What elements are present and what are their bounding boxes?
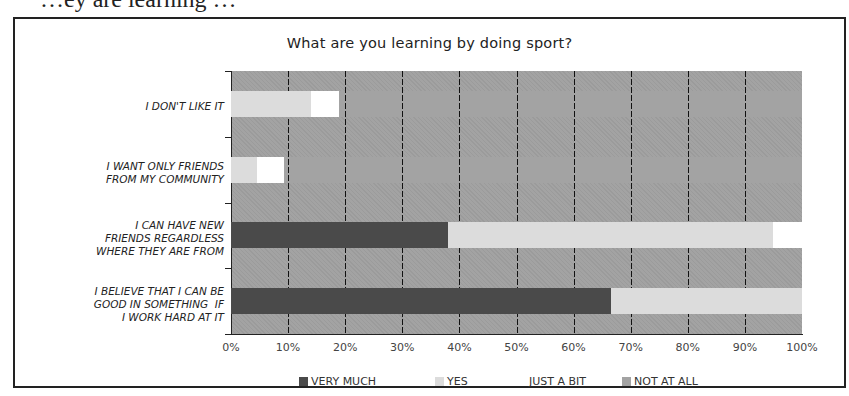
chart-title: What are you learning by doing sport?: [15, 35, 844, 51]
x-tick-label: 40%: [447, 341, 471, 354]
legend-swatch: [517, 377, 526, 386]
x-tick-label: 100%: [786, 341, 817, 354]
bar-segment-very-much: [231, 222, 448, 248]
legend-item: NOT AT ALL: [622, 375, 698, 388]
bar-segment-yes: [448, 222, 773, 248]
chart-frame: What are you learning by doing sport? I …: [13, 17, 846, 388]
bar-row: [231, 288, 802, 314]
category-label: I CAN HAVE NEW FRIENDS REGARDLESS WHERE …: [96, 219, 224, 258]
x-tick-label: 0%: [222, 341, 239, 354]
category-label: I DON'T LIKE IT: [145, 100, 224, 113]
legend-swatch: [622, 377, 631, 386]
x-tick-label: 60%: [561, 341, 585, 354]
y-tick: [225, 334, 232, 335]
bar-segment-yes: [611, 288, 802, 314]
bar-segment-just-a-bit: [311, 91, 340, 117]
y-tick: [225, 268, 232, 269]
x-tick-label: 50%: [504, 341, 528, 354]
legend-item: JUST A BIT: [517, 375, 586, 388]
y-tick: [225, 137, 232, 138]
x-axis: [231, 334, 803, 335]
x-tick-label: 10%: [276, 341, 300, 354]
legend-label: JUST A BIT: [529, 375, 586, 388]
legend-label: YES: [447, 375, 468, 388]
x-tick-label: 30%: [390, 341, 414, 354]
bar-segment-not-at-all: [284, 157, 802, 183]
plot-area: [231, 71, 802, 334]
x-tick-label: 90%: [733, 341, 757, 354]
x-tick-label: 20%: [333, 341, 357, 354]
bar-segment-very-much: [231, 288, 611, 314]
legend-item: YES: [435, 375, 468, 388]
y-tick: [225, 71, 232, 72]
cropped-page-text: …ey are learning …: [40, 0, 237, 13]
bar-segment-yes: [231, 157, 257, 183]
legend-swatch: [435, 377, 444, 386]
y-tick: [225, 203, 232, 204]
legend-swatch: [299, 377, 308, 386]
bar-segment-not-at-all: [339, 91, 802, 117]
bar-row: [231, 222, 802, 248]
bar-segment-yes: [231, 91, 311, 117]
legend-item: VERY MUCH: [299, 375, 376, 388]
x-tick-label: 80%: [676, 341, 700, 354]
legend-label: NOT AT ALL: [634, 375, 698, 388]
bar-segment-just-a-bit: [773, 222, 802, 248]
bar-segment-just-a-bit: [257, 157, 284, 183]
legend: VERY MUCHYESJUST A BITNOT AT ALL: [15, 375, 844, 389]
category-label: I BELIEVE THAT I CAN BE GOOD IN SOMETHIN…: [94, 285, 224, 324]
legend-label: VERY MUCH: [311, 375, 376, 388]
x-tick-label: 70%: [618, 341, 642, 354]
category-label: I WANT ONLY FRIENDS FROM MY COMMUNITY: [106, 160, 224, 186]
